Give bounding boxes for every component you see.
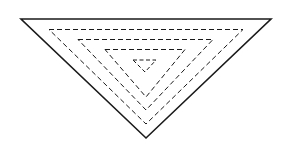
- background-rect: [0, 0, 284, 151]
- figure-canvas: [0, 0, 284, 151]
- nested-triangles-diagram: [0, 0, 284, 151]
